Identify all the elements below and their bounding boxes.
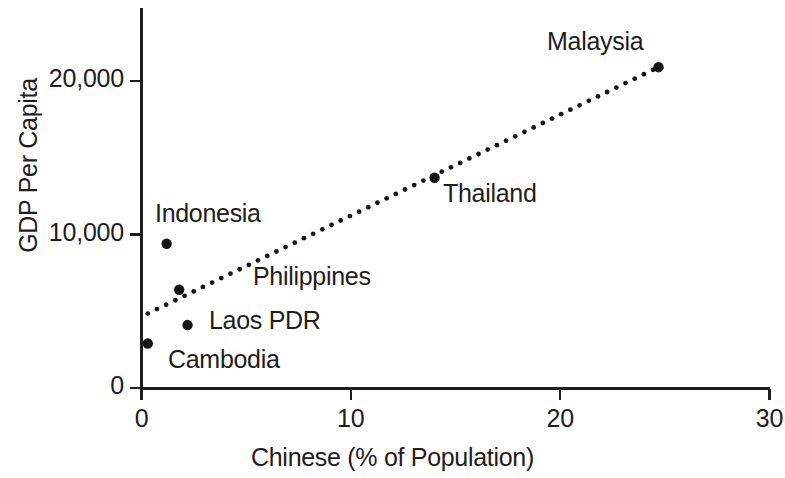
x-tick-mark xyxy=(559,389,562,400)
x-axis-line xyxy=(140,387,770,390)
trendline-dot xyxy=(348,214,353,219)
trendline-dot xyxy=(265,254,270,259)
data-point-thailand xyxy=(429,173,439,183)
trendline-dot xyxy=(311,231,316,236)
trendline-dot xyxy=(210,280,215,285)
trendline-dot xyxy=(182,293,187,298)
x-tick-mark xyxy=(768,389,771,400)
x-tick-label: 20 xyxy=(546,404,573,433)
trendline-dot xyxy=(614,85,619,90)
trendline-dot xyxy=(393,192,398,197)
trendline-dot xyxy=(302,236,307,241)
trendline-dot xyxy=(504,138,509,143)
x-tick-label: 30 xyxy=(756,404,783,433)
data-point-philippines xyxy=(174,285,184,295)
y-tick-mark xyxy=(130,80,141,83)
trendline-dot xyxy=(641,72,646,77)
y-tick-label: 0 xyxy=(0,371,124,400)
trendline-dot xyxy=(540,121,545,126)
trendline-dot xyxy=(586,98,591,103)
trendline-dot xyxy=(412,183,417,188)
data-point-cambodia xyxy=(143,338,153,348)
trendline-dot xyxy=(476,152,481,157)
trendline-dot xyxy=(550,116,555,121)
trendline-dot xyxy=(605,90,610,95)
scatter-chart: 010,00020,000 0102030 Chinese (% of Popu… xyxy=(0,0,785,478)
trendline-dot xyxy=(651,67,656,72)
trendline-dot xyxy=(292,240,297,245)
x-axis-title: Chinese (% of Population) xyxy=(0,443,785,472)
trendline-dot xyxy=(449,165,454,170)
trendline-dot xyxy=(623,81,628,86)
point-label-indonesia: Indonesia xyxy=(155,199,261,228)
y-tick-mark xyxy=(130,233,141,236)
point-label-laos-pdr: Laos PDR xyxy=(209,306,321,335)
x-tick-label: 0 xyxy=(135,404,149,433)
trendline-dot xyxy=(513,134,518,139)
trendline-dot xyxy=(283,245,288,250)
trendline-dot xyxy=(559,112,564,117)
trendline-dot xyxy=(219,276,224,281)
data-point-malaysia xyxy=(653,62,663,72)
trendline xyxy=(145,67,655,316)
trendline-dot xyxy=(329,223,334,228)
trendline-dot xyxy=(191,289,196,294)
point-label-malaysia: Malaysia xyxy=(547,27,643,56)
trendline-dot xyxy=(155,307,160,312)
trendline-dot xyxy=(173,298,178,303)
trendline-dot xyxy=(568,107,573,112)
trendline-dot xyxy=(403,187,408,192)
trendline-dot xyxy=(384,196,389,201)
y-axis-title: GDP Per Capita xyxy=(14,46,43,286)
y-axis-line xyxy=(140,8,143,389)
x-tick-mark xyxy=(350,389,353,400)
trendline-dot xyxy=(596,94,601,99)
point-label-philippines: Philippines xyxy=(253,262,371,291)
trendline-dot xyxy=(375,200,380,205)
trendline-dot xyxy=(366,205,371,210)
trendline-dot xyxy=(467,156,472,161)
trendline-dot xyxy=(274,249,279,254)
trendline-dot xyxy=(458,160,463,165)
trendline-dot xyxy=(531,125,536,130)
data-point-indonesia xyxy=(161,239,171,249)
trendline-dot xyxy=(577,103,582,108)
trendline-dot xyxy=(145,311,150,316)
trendline-dot xyxy=(228,271,233,276)
trendline-dot xyxy=(430,174,435,179)
point-label-thailand: Thailand xyxy=(443,179,537,208)
trendline-dot xyxy=(522,129,527,134)
trendline-dot xyxy=(485,147,490,152)
trendline-dot xyxy=(357,209,362,214)
trendline-dot xyxy=(201,285,206,290)
trendline-dot xyxy=(246,262,251,267)
x-tick-label: 10 xyxy=(337,404,364,433)
x-tick-mark xyxy=(140,389,143,400)
point-label-cambodia: Cambodia xyxy=(168,345,280,374)
trendline-dot xyxy=(632,76,637,81)
trendline-dot xyxy=(164,302,169,307)
trendline-dot xyxy=(338,218,343,223)
trendline-dot xyxy=(439,169,444,174)
trendline-dot xyxy=(320,227,325,232)
trendline-dot xyxy=(421,178,426,183)
data-point-laos-pdr xyxy=(182,320,192,330)
trendline-dot xyxy=(237,267,242,272)
trendline-dot xyxy=(494,143,499,148)
